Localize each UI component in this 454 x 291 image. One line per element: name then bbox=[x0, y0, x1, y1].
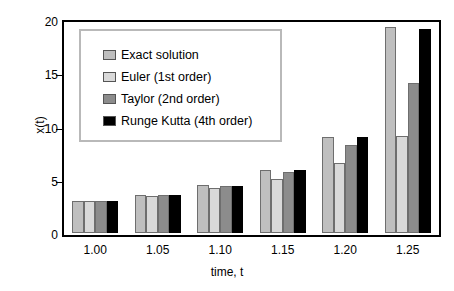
bar-group bbox=[316, 24, 379, 233]
bar bbox=[271, 179, 283, 233]
legend-item: Taylor (2nd order) bbox=[103, 88, 276, 110]
bar bbox=[396, 136, 408, 233]
bar bbox=[84, 201, 96, 233]
bar bbox=[146, 196, 158, 233]
legend-item: Exact solution bbox=[103, 44, 276, 66]
bar bbox=[294, 170, 306, 233]
x-tick-label: 1.10 bbox=[190, 243, 250, 257]
bar bbox=[334, 163, 346, 233]
bar bbox=[107, 201, 119, 233]
bar bbox=[169, 195, 181, 233]
bar bbox=[283, 172, 295, 233]
legend-items: Exact solutionEuler (1st order)Taylor (2… bbox=[103, 44, 276, 132]
bar bbox=[419, 29, 431, 233]
bar bbox=[197, 185, 209, 233]
bar bbox=[322, 137, 334, 233]
y-tick-label: 5 bbox=[32, 176, 58, 188]
bar bbox=[232, 186, 244, 233]
y-axis-tick-labels: 05101520 bbox=[30, 0, 58, 291]
bar bbox=[385, 27, 397, 233]
bar bbox=[220, 186, 232, 233]
bar-chart-figure: x(t) 05101520 1.001.051.101.151.201.25 t… bbox=[0, 0, 454, 291]
x-tick-label: 1.15 bbox=[253, 243, 313, 257]
legend-label: Euler (1st order) bbox=[121, 70, 211, 84]
bar bbox=[72, 201, 84, 233]
bar bbox=[95, 201, 107, 233]
legend-swatch-icon bbox=[103, 50, 116, 60]
legend-item: Euler (1st order) bbox=[103, 66, 276, 88]
legend-item: Runge Kutta (4th order) bbox=[103, 110, 276, 132]
legend-label: Taylor (2nd order) bbox=[121, 92, 220, 106]
legend-swatch-icon bbox=[103, 116, 116, 126]
y-tick-label: 10 bbox=[32, 123, 58, 135]
y-tick-label: 15 bbox=[32, 69, 58, 81]
bar bbox=[260, 170, 272, 233]
x-tick-label: 1.05 bbox=[128, 243, 188, 257]
y-tick-label: 20 bbox=[32, 16, 58, 28]
bar bbox=[209, 188, 221, 233]
chart-legend: Exact solutionEuler (1st order)Taylor (2… bbox=[79, 29, 282, 142]
x-tick-label: 1.00 bbox=[65, 243, 125, 257]
bar bbox=[345, 145, 357, 233]
legend-label: Runge Kutta (4th order) bbox=[121, 114, 252, 128]
legend-label: Exact solution bbox=[121, 48, 199, 62]
bar bbox=[357, 137, 369, 233]
bar bbox=[158, 195, 170, 233]
x-tick-label: 1.25 bbox=[378, 243, 438, 257]
legend-swatch-icon bbox=[103, 94, 116, 104]
y-tick-label: 0 bbox=[32, 229, 58, 241]
bar bbox=[135, 195, 147, 233]
x-tick-label: 1.20 bbox=[315, 243, 375, 257]
bar bbox=[408, 83, 420, 233]
legend-swatch-icon bbox=[103, 72, 116, 82]
x-axis-label: time, t bbox=[0, 265, 454, 279]
bar-group bbox=[379, 24, 442, 233]
